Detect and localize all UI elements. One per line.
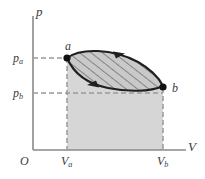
tick-label-Vb: Vb [157, 155, 168, 169]
tick-label-pb-sub: b [19, 92, 23, 101]
tick-label-Va-sub: a [68, 160, 72, 169]
tick-label-Vb-sub: b [164, 160, 168, 169]
x-axis-label: V [188, 140, 196, 153]
pv-diagram-figure: p V pa pb Va Vb a b O [0, 0, 205, 179]
point-label-a: a [65, 40, 71, 52]
point-marker-a [63, 54, 70, 61]
tick-label-pb: pb [13, 87, 23, 101]
tick-label-Va: Va [61, 155, 72, 169]
y-axis-label: p [36, 5, 43, 18]
point-label-b: b [172, 82, 178, 94]
tick-label-pa-sub: a [19, 57, 23, 66]
tick-label-pa: pa [13, 52, 23, 66]
origin-label: O [20, 155, 29, 167]
point-marker-b [159, 83, 166, 90]
